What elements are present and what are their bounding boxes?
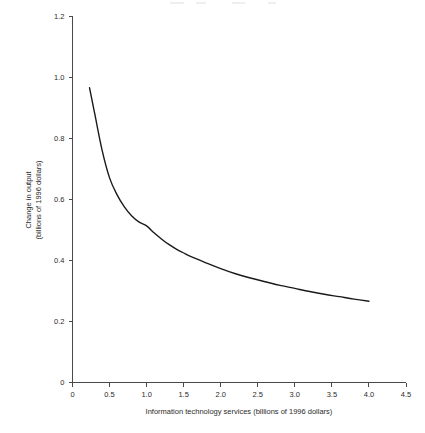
x-tick-label: 0.5 xyxy=(104,390,114,399)
line-chart: 00.20.40.60.81.01.2 00.51.01.52.02.53.03… xyxy=(0,0,425,433)
axis-lines xyxy=(72,16,406,383)
y-tick-label: 0.8 xyxy=(54,134,64,143)
x-axis-ticks xyxy=(73,383,407,387)
chart-figure: 00.20.40.60.81.01.2 00.51.01.52.02.53.03… xyxy=(0,0,425,433)
x-tick-label: 1.5 xyxy=(178,390,188,399)
y-tick-label: 0.6 xyxy=(54,195,64,204)
y-tick-label: 0.2 xyxy=(54,317,64,326)
y-axis-ticks xyxy=(69,16,73,383)
y-axis-title: Change in output (billions of 1996 dolla… xyxy=(24,160,43,240)
y-axis-tick-labels: 00.20.40.60.81.01.2 xyxy=(54,12,64,388)
y-tick-label: 0.4 xyxy=(54,256,64,265)
y-tick-label: 0 xyxy=(60,378,64,387)
x-axis-tick-labels: 00.51.01.52.02.53.03.54.04.5 xyxy=(70,390,411,399)
x-tick-label: 3.5 xyxy=(327,390,337,399)
x-axis-title: Information technology services (billion… xyxy=(146,407,333,416)
y-tick-label: 1.2 xyxy=(54,12,64,21)
x-tick-label: 1.0 xyxy=(141,390,151,399)
scan-artifact xyxy=(170,2,276,4)
x-tick-label: 2.5 xyxy=(253,390,263,399)
y-axis-title-line1: Change in output xyxy=(24,171,33,229)
data-series-line xyxy=(90,88,369,301)
x-tick-label: 0 xyxy=(70,390,74,399)
y-tick-label: 1.0 xyxy=(54,73,64,82)
x-tick-label: 4.0 xyxy=(364,390,374,399)
x-tick-label: 2.0 xyxy=(216,390,226,399)
x-tick-label: 4.5 xyxy=(401,390,411,399)
y-axis-title-line2: (billions of 1996 dollars) xyxy=(34,160,43,240)
x-tick-label: 3.0 xyxy=(290,390,300,399)
